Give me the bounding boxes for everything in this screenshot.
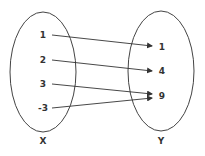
- x-element-2: 2: [40, 56, 46, 65]
- y-element-4: 4: [159, 67, 165, 76]
- y-element-1: 1: [159, 43, 165, 52]
- x-element-3: 3: [40, 80, 46, 89]
- set-x-label: X: [40, 137, 47, 146]
- arrow-2-to-4: [52, 60, 152, 71]
- arrow-1-to-1: [52, 35, 152, 46]
- y-element-9: 9: [159, 92, 165, 101]
- arrow-neg3-to-9: [52, 98, 152, 108]
- arrow-3-to-9: [52, 84, 152, 94]
- set-y-label: Y: [158, 137, 165, 146]
- x-element-1: 1: [40, 31, 46, 40]
- x-element-neg3: -3: [38, 104, 48, 113]
- mapping-diagram: [0, 0, 205, 156]
